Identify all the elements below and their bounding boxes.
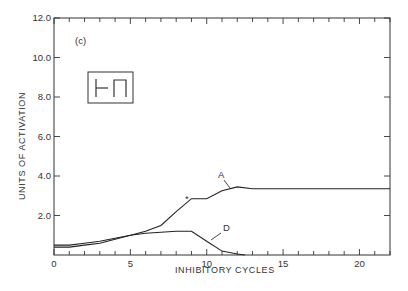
y-tick-label: 8.0 <box>38 91 51 102</box>
y-axis-title: UNITS OF ACTIVATION <box>17 92 27 200</box>
series-a-line <box>54 187 390 245</box>
svg-text:A: A <box>218 169 225 180</box>
pi-shape-icon <box>114 80 126 97</box>
svg-text:D: D <box>223 222 230 233</box>
inset-stimulus <box>88 72 133 103</box>
series-d-label: D <box>211 222 230 240</box>
data-series <box>54 187 390 255</box>
y-tick-label: 12.0 <box>33 12 52 23</box>
activation-chart: 05101520 2.04.06.08.010.012.0 (c) UNITS … <box>0 0 408 291</box>
x-tick-label: 5 <box>128 258 133 269</box>
x-tick-label: 15 <box>278 258 289 269</box>
panel-label: (c) <box>75 35 86 46</box>
y-tick-label: 4.0 <box>38 170 51 181</box>
y-tick-label: 10.0 <box>33 52 52 63</box>
t-shape-icon <box>96 79 108 97</box>
x-tick-label: 20 <box>354 258 365 269</box>
y-tick-label: 2.0 <box>38 210 51 221</box>
series-a-label: A <box>218 169 230 188</box>
asterisk-marker: * <box>185 193 189 204</box>
x-axis-title: INHIBITORY CYCLES <box>175 265 275 275</box>
x-axis-ticks: 05101520 <box>51 18 390 269</box>
plot-frame <box>54 18 390 255</box>
y-tick-label: 6.0 <box>38 131 51 142</box>
x-tick-label: 0 <box>51 258 56 269</box>
